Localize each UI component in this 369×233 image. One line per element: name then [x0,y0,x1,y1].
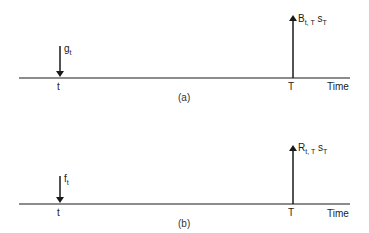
cash-flow-diagram [0,0,369,233]
down-arrow-label-b: ft [64,174,69,184]
tick-t-a: t [57,82,60,92]
axis-label-a: Time [327,82,349,92]
tick-t-b: t [57,208,60,218]
up-arrow-label-a: Bt, T sT [298,14,327,24]
down-arrow-label-a: gt [64,44,72,54]
tick-T-b: T [288,208,294,218]
up-arrow-label-b: Rt, T sT [298,143,327,153]
axis-label-b: Time [327,209,349,219]
caption-a: (a) [178,93,190,103]
tick-T-a: T [288,82,294,92]
caption-b: (b) [178,219,190,229]
